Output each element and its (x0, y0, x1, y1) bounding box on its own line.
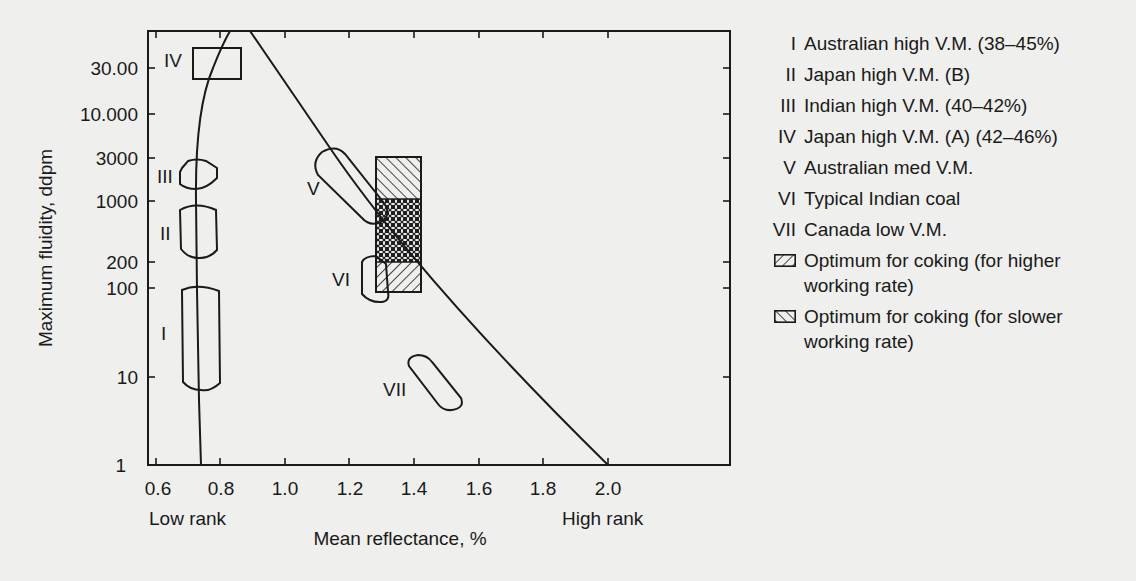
legend-item: V Australian med V.M. (760, 152, 1130, 183)
legend-item: II Japan high V.M. (B) (760, 59, 1130, 90)
legend-item: VI Typical Indian coal (760, 183, 1130, 214)
hatch-right-swatch-icon (774, 254, 796, 267)
high-rank-boundary-curve (250, 31, 608, 465)
legend-label: Canada low V.M. (804, 214, 1130, 245)
region-label-iv: IV (164, 50, 182, 71)
legend-key: I (760, 28, 804, 59)
y-tick-label: 30.00 (90, 58, 138, 79)
y-tick-label: 1000 (96, 191, 138, 212)
region-vii-shape (408, 355, 462, 410)
region-iii-shape (180, 160, 217, 190)
x-axis-label: Mean reflectance, % (313, 528, 486, 549)
x-tick-label: 0.6 (145, 478, 171, 499)
region-label-v: V (307, 178, 320, 199)
legend-item: IV Japan high V.M. (A) (42–46%) (760, 121, 1130, 152)
optimum-slower-zone (376, 157, 421, 199)
region-label-ii: II (160, 223, 171, 244)
region-iv-shape (193, 48, 241, 79)
x-tick-label: 1.0 (272, 478, 298, 499)
legend-label: Australian high V.M. (38–45%) (804, 28, 1130, 59)
low-rank-boundary-curve (196, 31, 230, 465)
region-i-shape (182, 287, 220, 391)
x-tick-label: 1.8 (530, 478, 556, 499)
x-tick-label: 1.6 (466, 478, 492, 499)
region-label-vii: VII (383, 379, 406, 400)
legend-label: Optimum for coking (for slower working r… (804, 304, 1130, 354)
legend-key: IV (760, 121, 804, 152)
x-tick-label: 0.8 (208, 478, 234, 499)
legend-item-slower-rate: Optimum for coking (for slower working r… (760, 301, 1130, 357)
x-tick-label: 1.4 (401, 478, 428, 499)
legend-label: Japan high V.M. (B) (804, 59, 1130, 90)
legend-key (760, 245, 804, 276)
region-ii-shape (180, 206, 217, 259)
optimum-overlap-zone (376, 199, 421, 262)
legend-label: Japan high V.M. (A) (42–46%) (804, 121, 1130, 152)
optimum-higher-zone (376, 262, 421, 292)
legend-key: III (760, 90, 804, 121)
low-rank-label: Low rank (149, 508, 227, 529)
region-label-vi: VI (332, 269, 350, 290)
legend-key: VII (760, 214, 804, 245)
legend-key: VI (760, 183, 804, 214)
hatch-left-swatch-icon (774, 310, 796, 323)
region-label-iii: III (157, 166, 173, 187)
chart-legend: I Australian high V.M. (38–45%) II Japan… (760, 28, 1130, 357)
y-tick-label: 3000 (96, 148, 138, 169)
y-axis-ticks (148, 68, 730, 377)
legend-key: II (760, 59, 804, 90)
x-tick-label: 2.0 (595, 478, 621, 499)
y-tick-label: 100 (106, 278, 138, 299)
legend-label: Indian high V.M. (40–42%) (804, 90, 1130, 121)
y-tick-label: 200 (106, 252, 138, 273)
legend-item-higher-rate: Optimum for coking (for higher working r… (760, 245, 1130, 301)
legend-key: V (760, 152, 804, 183)
y-tick-label: 1 (115, 455, 126, 476)
region-label-i: I (161, 323, 166, 344)
y-tick-label: 10.000 (80, 104, 138, 125)
plot-frame (148, 31, 730, 465)
x-tick-label: 1.2 (337, 478, 363, 499)
legend-label: Typical Indian coal (804, 183, 1130, 214)
high-rank-label: High rank (562, 508, 644, 529)
legend-item: III Indian high V.M. (40–42%) (760, 90, 1130, 121)
legend-item: VII Canada low V.M. (760, 214, 1130, 245)
y-axis-label: Maximum fluidity, ddpm (35, 149, 56, 347)
legend-item: I Australian high V.M. (38–45%) (760, 28, 1130, 59)
legend-label: Australian med V.M. (804, 152, 1130, 183)
legend-label: Optimum for coking (for higher working r… (804, 248, 1130, 298)
y-tick-label: 10 (117, 367, 138, 388)
legend-key (760, 301, 804, 332)
